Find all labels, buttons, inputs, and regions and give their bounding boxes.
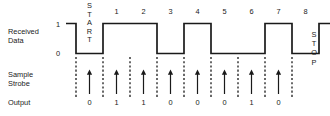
stop-bit-label: STOP	[311, 30, 317, 67]
start-label-char: T	[87, 35, 92, 44]
output-bit-value: 0	[168, 98, 172, 107]
sample-strobe-arrow-head	[87, 70, 92, 75]
sample-strobe-arrow-head	[195, 70, 200, 75]
bit-number-2: 2	[141, 7, 145, 16]
sample-strobe-arrow-head	[276, 70, 281, 75]
stop-label-char: P	[312, 58, 317, 67]
sample-strobe-arrow-head	[141, 70, 146, 75]
output-bit-row: 01100010	[87, 98, 280, 107]
stop-label-char: S	[312, 30, 317, 39]
stop-label-char: T	[312, 39, 317, 48]
bit-number-7: 7	[276, 7, 280, 16]
sample-strobe-label-line2: Strobe	[8, 79, 30, 88]
bit-number-row: 12345678	[114, 7, 307, 16]
sample-strobe-arrow-head	[168, 70, 173, 75]
bit-number-5: 5	[222, 7, 226, 16]
bit-number-6: 6	[249, 7, 253, 16]
level-low-label: 0	[56, 49, 60, 58]
sample-strobe-arrow-head	[222, 70, 227, 75]
output-bit-value: 0	[195, 98, 199, 107]
bit-number-1: 1	[114, 7, 118, 16]
received-data-label-line1: Received	[8, 27, 39, 36]
bit-number-4: 4	[195, 7, 199, 16]
sample-strobe-arrow-head	[249, 70, 254, 75]
sample-strobe-arrow-head	[114, 70, 119, 75]
bit-number-3: 3	[168, 7, 172, 16]
bit-number-8: 8	[303, 7, 307, 16]
output-bit-value: 1	[249, 98, 253, 107]
output-bit-value: 0	[222, 98, 226, 107]
sample-strobe-label-line1: Sample	[8, 70, 33, 79]
output-bit-value: 0	[276, 98, 280, 107]
sample-strobe-arrows	[87, 70, 281, 95]
level-high-label: 1	[56, 20, 60, 29]
output-bit-value: 0	[87, 98, 91, 107]
bit-boundary-lines	[76, 57, 292, 97]
start-bit-label: START	[87, 1, 92, 44]
output-bit-value: 1	[114, 98, 118, 107]
received-data-waveform	[66, 24, 330, 54]
serial-data-timing-diagram: Received Data Sample Strobe Output 1 0 1…	[0, 0, 330, 116]
output-label: Output	[8, 98, 30, 107]
output-bit-value: 1	[141, 98, 145, 107]
received-data-label-line2: Data	[8, 36, 25, 45]
